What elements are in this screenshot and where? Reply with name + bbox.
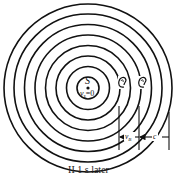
source-velocity-label: vs=0: [80, 89, 94, 99]
ear-icon-1: [118, 76, 126, 89]
source-label: S: [85, 75, 90, 86]
figure-caption: II 1 s later: [0, 164, 177, 175]
doppler-wavefront-diagram: S vs=0 vB c: [0, 0, 177, 181]
ear-icon-2: [138, 76, 146, 89]
